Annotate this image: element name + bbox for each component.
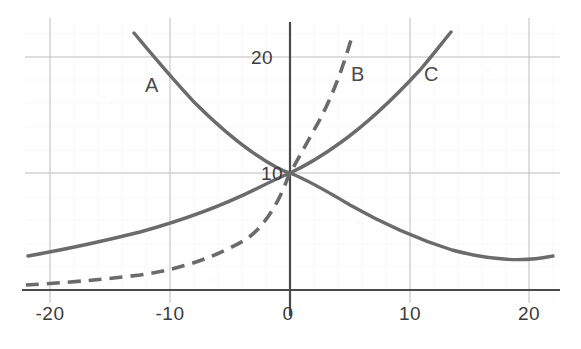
exponential-curves-chart: A B C 20 10 -20 -10 0 10 20 <box>0 0 581 349</box>
x-tick-label-pos10: 10 <box>399 303 421 324</box>
curve-label-a: A <box>145 74 159 96</box>
x-tick-label-pos20: 20 <box>518 303 540 324</box>
y-tick-label-10: 10 <box>261 163 283 184</box>
chart-container: A B C 20 10 -20 -10 0 10 20 <box>0 0 581 349</box>
x-tick-label-zero: 0 <box>282 303 293 324</box>
curve-label-b: B <box>351 63 364 85</box>
x-tick-label-neg20: -20 <box>36 303 65 324</box>
curve-label-c: C <box>424 63 438 85</box>
x-tick-label-neg10: -10 <box>156 303 185 324</box>
y-tick-label-20: 20 <box>251 47 273 68</box>
